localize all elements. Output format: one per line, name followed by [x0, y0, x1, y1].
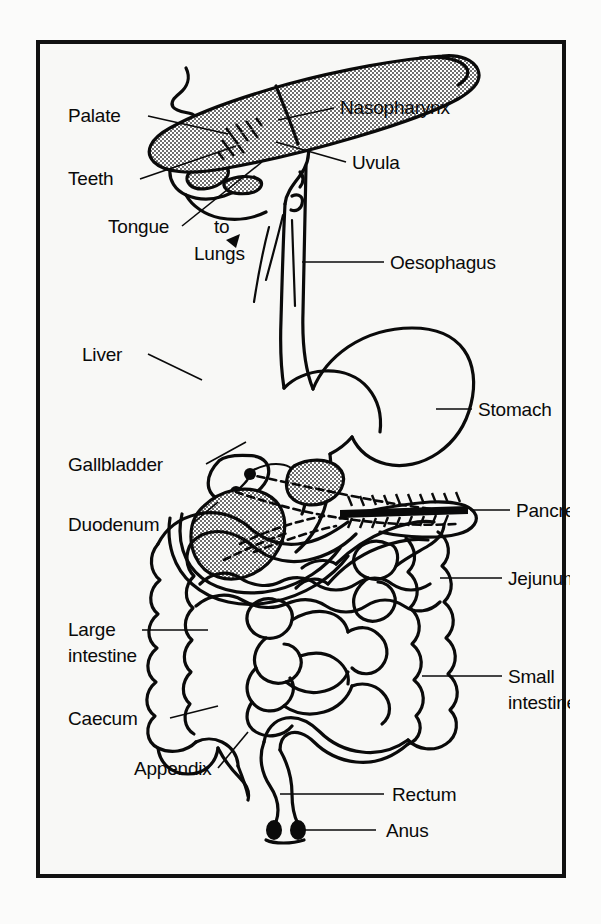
- anal-sphincter-left: [266, 820, 282, 840]
- label-nasopharynx: Nasopharynx: [340, 97, 450, 118]
- label-small-intestine-line1: Small: [508, 666, 555, 687]
- label-stomach: Stomach: [478, 399, 552, 420]
- figure-caption: The digestive system: [219, 880, 392, 882]
- label-to: to: [214, 216, 229, 237]
- descending-colon-inner: [406, 538, 423, 744]
- label-palate: Palate: [68, 105, 121, 126]
- uvula-shape: [300, 172, 303, 187]
- trachea-right-wall: [292, 220, 295, 306]
- trachea-branch: [266, 215, 283, 280]
- stomach-lesser-curve: [284, 371, 381, 432]
- page-canvas: Palate Teeth Tongue to Lungs Nasopharynx…: [0, 0, 601, 924]
- digestive-system-diagram: Palate Teeth Tongue to Lungs Nasopharynx…: [40, 44, 570, 882]
- label-liver: Liver: [82, 344, 123, 365]
- label-lungs: Lungs: [194, 243, 245, 264]
- jejunum-coil-1: [354, 541, 398, 579]
- rectum-left-wall: [261, 742, 278, 822]
- label-anus: Anus: [386, 820, 429, 841]
- label-duodenum: Duodenum: [68, 514, 159, 535]
- leader-appendix: [218, 732, 248, 768]
- jejunum-coil-2: [396, 524, 444, 566]
- appendix-tip: [238, 766, 248, 796]
- label-oesophagus: Oesophagus: [390, 252, 496, 273]
- ileum-coil-4: [300, 653, 348, 684]
- pancreas-group: [340, 492, 476, 537]
- label-teeth: Teeth: [68, 168, 113, 189]
- appendix-outline: [218, 748, 249, 800]
- ileum-coil-9: [352, 684, 390, 724]
- stomach-outline: [313, 328, 474, 466]
- rectum-anus-group: [261, 742, 306, 843]
- anus-opening: [266, 840, 304, 843]
- stomach-pylorus: [330, 437, 352, 454]
- figure-frame: Palate Teeth Tongue to Lungs Nasopharynx…: [36, 40, 566, 878]
- label-tongue: Tongue: [108, 216, 169, 237]
- duodenal-cap: [287, 460, 344, 505]
- label-appendix: Appendix: [134, 758, 212, 779]
- leader-caecum: [170, 706, 218, 718]
- label-large-intestine-line2: intestine: [68, 645, 137, 666]
- ileum-coil-7: [247, 668, 293, 711]
- trachea-left-wall: [254, 227, 269, 302]
- label-caecum: Caecum: [68, 708, 138, 729]
- ileum-coil-2: [292, 611, 348, 632]
- label-gallbladder: Gallbladder: [68, 454, 164, 475]
- label-pancreas: Pancreas: [516, 500, 570, 521]
- label-rectum: Rectum: [392, 784, 456, 805]
- ileum-coil-1: [247, 599, 292, 639]
- oesophagus-left-wall: [281, 204, 285, 388]
- duodenum-group: [169, 454, 464, 604]
- leader-liver: [148, 354, 202, 380]
- ascending-colon-outer: [147, 544, 196, 751]
- stomach-group: [284, 328, 474, 466]
- ileum-coil-5: [348, 628, 387, 674]
- oesophagus-right-wall: [303, 166, 313, 389]
- transverse-colon-haustra: [200, 573, 430, 590]
- label-jejunum: Jejunum: [508, 568, 570, 589]
- label-uvula: Uvula: [352, 152, 400, 173]
- teeth-shape: [224, 177, 262, 194]
- label-small-intestine-line2: intestine: [508, 692, 570, 713]
- rectum-right-wall: [280, 750, 298, 824]
- ileum-coil-3: [254, 638, 301, 683]
- epiglottis-shape: [291, 195, 302, 211]
- label-large-intestine-line1: Large: [68, 619, 116, 640]
- leader-gallbladder: [206, 442, 246, 464]
